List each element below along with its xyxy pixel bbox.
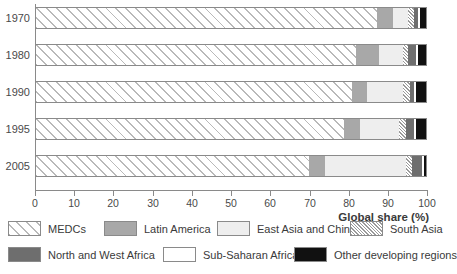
x-tick-label-80: 80: [343, 197, 355, 209]
segment-south-asia: [399, 119, 407, 139]
y-axis-label-1995: 1995: [0, 123, 30, 135]
segment-other-developing-regions: [416, 119, 426, 139]
y-axis-label-1990: 1990: [0, 86, 30, 98]
legend-item-north-and-west-africa[interactable]: North and West Africa: [8, 247, 155, 262]
legend-row-2: North and West Africa Sub-Saharan Africa…: [8, 247, 432, 273]
legend-swatch-north-and-west-africa-icon: [8, 247, 41, 262]
x-tick-label-70: 70: [304, 197, 316, 209]
legend-swatch-other-developing-regions-icon: [294, 247, 327, 262]
bar-row[interactable]: [35, 7, 427, 29]
segment-medcs: [36, 8, 377, 28]
x-tick-label-0: 0: [32, 197, 38, 209]
legend-label-latin-america: Latin America: [144, 223, 211, 235]
segment-latin-america: [352, 82, 368, 102]
legend-label-other-developing-regions: Other developing regions: [334, 249, 457, 261]
legend-label-east-asia-and-china: East Asia and China: [257, 223, 356, 235]
x-tick-label-20: 20: [107, 197, 119, 209]
segment-north-and-west-africa: [408, 45, 416, 65]
segment-south-asia: [403, 82, 411, 102]
segment-other-developing-regions: [424, 156, 426, 176]
segment-east-asia-and-china: [379, 45, 402, 65]
segment-other-developing-regions: [418, 45, 426, 65]
x-tick-40: [192, 191, 193, 196]
y-axis-label-2005: 2005: [0, 160, 30, 172]
bar-row[interactable]: [35, 81, 427, 103]
segment-east-asia-and-china: [367, 82, 402, 102]
legend-swatch-sub-saharan-africa-icon: [163, 247, 196, 262]
x-tick-label-60: 60: [264, 197, 276, 209]
x-tick-label-90: 90: [382, 197, 394, 209]
x-tick-30: [153, 191, 154, 196]
legend-item-latin-america[interactable]: Latin America: [104, 221, 211, 236]
segment-east-asia-and-china: [360, 119, 399, 139]
segment-latin-america: [377, 8, 393, 28]
x-tick-0: [35, 191, 36, 196]
x-tick-label-40: 40: [186, 197, 198, 209]
legend-item-medcs[interactable]: MEDCs: [8, 221, 86, 236]
x-tick-label-50: 50: [225, 197, 237, 209]
x-tick-label-30: 30: [147, 197, 159, 209]
segment-medcs: [36, 45, 356, 65]
legend-label-medcs: MEDCs: [48, 223, 86, 235]
legend-swatch-medcs-icon: [8, 221, 41, 236]
x-tick-label-10: 10: [68, 197, 80, 209]
x-tick-60: [270, 191, 271, 196]
segment-other-developing-regions: [420, 8, 426, 28]
y-axis-line: [35, 4, 36, 191]
y-axis-label-1980: 1980: [0, 49, 30, 61]
x-tick-70: [310, 191, 311, 196]
segment-north-and-west-africa: [412, 156, 422, 176]
x-tick-100: [427, 191, 428, 196]
segment-other-developing-regions: [416, 82, 426, 102]
legend: MEDCs Latin America East Asia and China …: [8, 221, 432, 273]
legend-swatch-latin-america-icon: [104, 221, 137, 236]
segment-medcs: [36, 156, 309, 176]
x-tick-90: [388, 191, 389, 196]
segment-east-asia-and-china: [393, 8, 409, 28]
bar-track-1970: [35, 7, 427, 29]
legend-label-north-and-west-africa: North and West Africa: [48, 249, 155, 261]
segment-east-asia-and-china: [325, 156, 407, 176]
x-tick-50: [231, 191, 232, 196]
x-tick-10: [74, 191, 75, 196]
segment-latin-america: [344, 119, 360, 139]
legend-swatch-east-asia-and-china-icon: [217, 221, 250, 236]
segment-medcs: [36, 82, 352, 102]
segment-latin-america: [309, 156, 325, 176]
bar-track-1995: [35, 118, 427, 140]
x-tick-label-100: 100: [418, 197, 436, 209]
segment-medcs: [36, 119, 344, 139]
legend-label-sub-saharan-africa: Sub-Saharan Africa: [203, 249, 298, 261]
bar-row[interactable]: [35, 155, 427, 177]
y-axis-label-1970: 1970: [0, 12, 30, 24]
segment-north-and-west-africa: [406, 119, 414, 139]
legend-item-south-asia[interactable]: South Asia: [350, 221, 443, 236]
x-tick-20: [113, 191, 114, 196]
legend-row-1: MEDCs Latin America East Asia and China …: [8, 221, 432, 247]
bar-row[interactable]: [35, 118, 427, 140]
bar-track-1980: [35, 44, 427, 66]
legend-label-south-asia: South Asia: [390, 223, 443, 235]
bar-row[interactable]: [35, 44, 427, 66]
bar-track-1990: [35, 81, 427, 103]
bar-track-2005: [35, 155, 427, 177]
segment-latin-america: [356, 45, 379, 65]
legend-item-east-asia-and-china[interactable]: East Asia and China: [217, 221, 356, 236]
legend-item-other-developing-regions[interactable]: Other developing regions: [294, 247, 457, 262]
legend-swatch-south-asia-icon: [350, 221, 383, 236]
plot-area: [35, 6, 427, 186]
legend-item-sub-saharan-africa[interactable]: Sub-Saharan Africa: [163, 247, 298, 262]
x-tick-80: [349, 191, 350, 196]
